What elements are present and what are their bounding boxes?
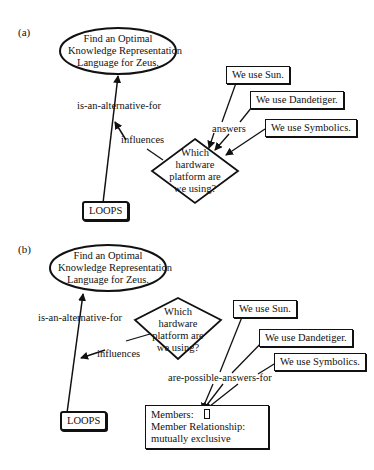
set-members-row: Members: <box>151 409 263 421</box>
goal-line: Find an Optimal <box>68 33 168 45</box>
answer-node-symbolics-b: We use Symbolics. <box>274 353 366 371</box>
question-line: platform are <box>143 330 213 342</box>
question-line: platform are <box>160 171 230 183</box>
set-node: Members: Member Relationship: mutually e… <box>145 405 269 449</box>
question-line: hardware <box>143 318 213 330</box>
alternative-node-loops-b: LOOPS <box>60 411 107 431</box>
goal-line: Language for Zeus. <box>58 274 158 286</box>
members-slot-icon <box>204 409 210 419</box>
alternative-node-loops-a: LOOPS <box>82 201 129 221</box>
answer-node-dandetiger-a: We use Dandetiger. <box>250 91 344 109</box>
question-node-a: Which hardware platform are we using? <box>160 147 230 195</box>
question-line: Which <box>160 147 230 159</box>
relationship-label: Member Relationship: <box>151 421 263 433</box>
link-label-alternative-b: is-an-alternative-for <box>38 312 122 324</box>
answer-node-symbolics-a: We use Symbolics. <box>265 119 357 137</box>
link-label-alternative-a: is-an-alternative-for <box>77 100 161 112</box>
goal-line: Knowledge Representation <box>58 262 158 274</box>
question-line: Which <box>143 306 213 318</box>
answer-node-sun-a: We use Sun. <box>226 66 290 84</box>
panel-label-a: (a) <box>18 26 30 38</box>
goal-line: Knowledge Representation <box>68 45 168 57</box>
link-label-answers-a: answers <box>212 123 246 135</box>
panel-label-b: (b) <box>18 243 31 255</box>
question-line: we using? <box>143 342 213 354</box>
goal-node-b: Find an Optimal Knowledge Representation… <box>58 250 158 286</box>
goal-line: Language for Zeus. <box>68 57 168 69</box>
goal-node-a: Find an Optimal Knowledge Representation… <box>68 33 168 69</box>
question-line: we using? <box>160 183 230 195</box>
goal-line: Find an Optimal <box>58 250 158 262</box>
link-label-answers-b: are-possible-answers-for <box>168 372 272 384</box>
diagram-edges <box>0 0 374 470</box>
members-label: Members: <box>151 409 194 420</box>
link-label-influences-a: influences <box>121 134 164 146</box>
answer-node-dandetiger-b: We use Dandetiger. <box>259 329 353 347</box>
question-line: hardware <box>160 159 230 171</box>
answer-node-sun-b: We use Sun. <box>233 300 297 318</box>
link-label-influences-b: influences <box>97 348 140 360</box>
relationship-value: mutually exclusive <box>151 433 263 445</box>
question-node-b: Which hardware platform are we using? <box>143 306 213 354</box>
